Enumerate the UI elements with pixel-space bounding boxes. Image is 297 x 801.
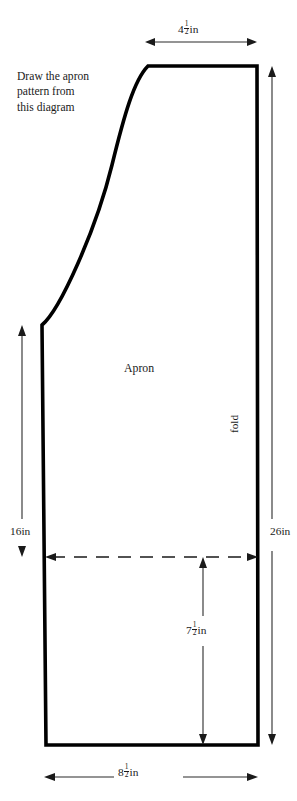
apron-region-label: Apron [124, 361, 154, 377]
dimension-right-whole: 26 [270, 525, 281, 537]
arrow-head-left [44, 773, 55, 781]
dimension-label-lower-height: 712in [186, 622, 206, 638]
dimension-top-unit: in [189, 23, 198, 35]
arrow-head-bottom [18, 546, 26, 557]
arrow-head-right [247, 773, 258, 781]
dimension-top-width [145, 38, 257, 46]
dimension-top-whole: 4 [178, 23, 184, 35]
arrow-head-right [247, 38, 257, 46]
dimension-left-height [18, 325, 26, 557]
instruction-text: Draw the apron pattern from this diagram [17, 69, 147, 115]
apron-diagram: Draw the apron pattern from this diagram… [0, 0, 297, 801]
fold-edge-label-text: fold [227, 415, 242, 433]
dimension-label-left-height: 16in [10, 524, 30, 539]
dimension-bottom-width [44, 773, 258, 781]
apron-outline-path [42, 66, 258, 745]
dimension-right-unit: in [281, 525, 290, 537]
arrow-head-top [268, 66, 276, 77]
fold-edge-label: fold [227, 397, 242, 415]
arrow-head-bottom [268, 734, 276, 745]
arrow-head-top [18, 325, 26, 336]
dimension-left-whole: 16 [10, 525, 21, 537]
diagram-canvas [0, 0, 297, 801]
dimension-mid-unit: in [197, 624, 206, 636]
dimension-bottom-whole: 8 [118, 766, 124, 778]
dimension-label-top-width: 412in [178, 21, 198, 37]
dimension-left-unit: in [21, 525, 30, 537]
dimension-bottom-unit: in [129, 766, 138, 778]
dimension-right-height [268, 66, 276, 745]
arrow-head-left [145, 38, 155, 46]
dimension-label-bottom-width: 812in [118, 764, 138, 780]
dimension-mid-whole: 7 [186, 624, 192, 636]
dimension-label-right-height: 26in [270, 524, 290, 539]
